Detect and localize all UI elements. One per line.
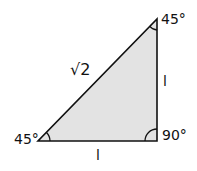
triangle-shape bbox=[38, 19, 157, 141]
angle-label-bottom-right: 90° bbox=[162, 128, 187, 142]
angle-label-top: 45° bbox=[161, 12, 186, 26]
base-side-label: l bbox=[96, 148, 100, 162]
vertical-side-label: l bbox=[163, 74, 167, 88]
triangle-diagram: 45° 45° 90° √2 l l bbox=[0, 0, 197, 171]
hypotenuse-label: √2 bbox=[70, 62, 90, 78]
angle-label-bottom-left: 45° bbox=[14, 132, 39, 146]
